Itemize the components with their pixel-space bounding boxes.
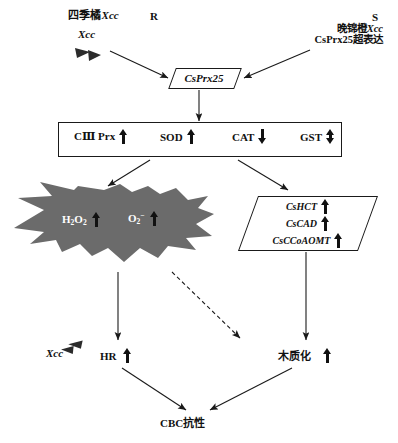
source-susceptible-cultivar: 晚锦橙Xcc CsPrx25超表达 xyxy=(258,24,383,45)
resistance-tag: R xyxy=(150,11,158,22)
lignin-gene-label: CsHCT xyxy=(286,201,317,212)
arrow-up-icon xyxy=(323,348,332,363)
enzyme-item-ciii-prx: CⅢ Prx xyxy=(74,129,128,144)
enzyme-item-sod: SOD xyxy=(160,129,196,144)
ros-formula-h2o2: H2O2 xyxy=(62,213,87,227)
pathway-diagram: 四季橘Xcc R Xcc 晚锦橙Xcc CsPrx25超表达 S CsPrx25… xyxy=(0,0,398,443)
arrow-up-down-icon xyxy=(326,129,335,144)
lignin-gene-label: CsCCoAOMT xyxy=(273,235,331,246)
pathogen-italic-left: Xcc xyxy=(102,9,119,21)
outcome-hypersensitive-response: HR xyxy=(100,348,132,363)
enzyme-item-cat: CAT xyxy=(232,129,267,144)
source-resistant-cultivar: 四季橘Xcc xyxy=(68,10,119,21)
lignin-gene-list: CsHCT CsCAD CsCCoAOMT xyxy=(246,197,370,250)
ros-item-hydrogen-peroxide: H2O2 xyxy=(62,212,101,227)
conclusion-label: CBC抗性 xyxy=(160,418,205,429)
arrow-down-icon xyxy=(258,129,267,144)
ros-formula-superoxide: O2− xyxy=(128,211,145,226)
arrow-up-icon xyxy=(123,348,132,363)
enzyme-item-gst: GST xyxy=(300,129,335,144)
hr-label: HR xyxy=(100,350,117,362)
enzyme-label-sod: SOD xyxy=(160,131,183,143)
ros-item-superoxide: O2− xyxy=(128,211,159,226)
cultivar-line-susceptible: 晚锦橙Xcc xyxy=(258,24,383,35)
enzyme-label-gst: GST xyxy=(300,131,322,143)
arrow-up-icon xyxy=(150,211,159,226)
lignification-label: 木质化 xyxy=(278,347,311,363)
csprx25-label: CsPrx25 xyxy=(172,68,236,87)
arrow-up-icon xyxy=(187,129,196,144)
lignin-gene-csccoaomt: CsCCoAOMT xyxy=(273,233,344,248)
arrow-up-icon xyxy=(321,199,330,214)
inoculum-label-left: Xcc xyxy=(78,29,95,40)
hr-pathogen-label: Xcc xyxy=(46,348,63,359)
lignin-gene-cscad: CsCAD xyxy=(286,216,330,231)
arrow-up-icon xyxy=(321,216,330,231)
arrow-up-icon xyxy=(119,129,128,144)
overexpression-line: CsPrx25超表达 xyxy=(258,35,383,46)
outcome-lignification: 木质化 xyxy=(278,347,332,363)
lignin-gene-cshct: CsHCT xyxy=(286,199,330,214)
arrow-up-icon xyxy=(334,233,343,248)
cultivar-label-resistant: 四季橘 xyxy=(68,9,102,21)
enzyme-label-ciii-prx: CⅢ Prx xyxy=(74,130,115,143)
arrow-up-icon xyxy=(92,212,101,227)
enzyme-label-cat: CAT xyxy=(232,131,254,143)
lignin-gene-label: CsCAD xyxy=(286,218,317,229)
susceptible-tag: S xyxy=(372,12,378,23)
